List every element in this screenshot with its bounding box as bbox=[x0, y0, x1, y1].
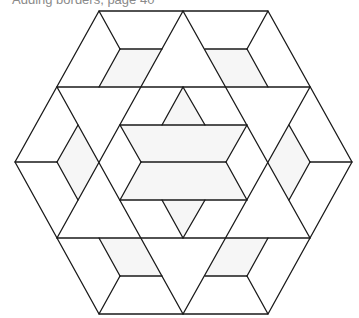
shaded-region bbox=[162, 87, 205, 125]
shaded-region bbox=[162, 200, 205, 238]
shaded-region bbox=[120, 125, 247, 162]
pattern-line bbox=[99, 276, 120, 314]
pattern-line bbox=[247, 276, 268, 314]
shaded-region bbox=[120, 162, 247, 200]
shaded-region bbox=[268, 125, 310, 200]
pattern-line bbox=[99, 11, 120, 49]
hexagon-quilt-diagram bbox=[0, 0, 359, 318]
pattern-line bbox=[247, 11, 268, 49]
shaded-region bbox=[99, 49, 162, 87]
shaded-region bbox=[99, 238, 162, 276]
shaded-region bbox=[57, 125, 99, 200]
